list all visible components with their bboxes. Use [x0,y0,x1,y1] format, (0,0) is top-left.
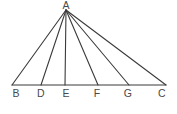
cevian-ae [65,10,66,85]
vertex-label-a: A [62,0,69,11]
vertex-label-g: G [124,88,132,99]
vertex-label-f: F [94,88,101,99]
vertex-label-d: D [37,88,45,99]
geometry-figure: A BDEFGC [0,0,177,114]
cevian-ag [66,10,129,85]
cevian-line-group [12,10,166,85]
cevian-ac [66,10,166,85]
cevian-af [66,10,98,85]
vertex-label-c: C [158,88,166,99]
vertex-label-b: B [12,88,19,99]
triangle-cevian-diagram [0,0,177,114]
cevian-ab [12,10,66,85]
cevian-ad [41,10,66,85]
vertex-label-e: E [62,88,69,99]
